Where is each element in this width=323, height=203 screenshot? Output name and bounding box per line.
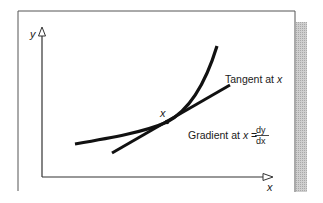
y-axis-label: y bbox=[29, 28, 37, 40]
y-axis-arrow-icon bbox=[39, 27, 46, 36]
gradient-label: Gradient at x = bbox=[188, 129, 257, 141]
outer-frame bbox=[18, 11, 295, 192]
tangent-label: Tangent at x bbox=[225, 73, 283, 85]
tangent-gradient-diagram: y x x Tangent at x Gradient at x = dy dx bbox=[0, 0, 323, 203]
x-axis-arrow-icon bbox=[263, 174, 273, 181]
gradient-fraction: dy dx bbox=[255, 125, 269, 146]
x-axis bbox=[42, 174, 273, 181]
tangent-point bbox=[165, 120, 169, 124]
x-axis-label: x bbox=[266, 181, 273, 193]
y-axis bbox=[39, 27, 46, 177]
frame-shadow bbox=[296, 22, 307, 192]
fraction-numerator: dy bbox=[256, 125, 266, 135]
point-label: x bbox=[159, 107, 166, 119]
tangent-line bbox=[112, 85, 230, 153]
fraction-denominator: dx bbox=[256, 136, 266, 146]
